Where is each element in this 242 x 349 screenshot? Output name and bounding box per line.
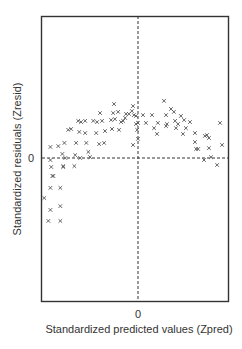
data-point-x-marker (155, 132, 159, 136)
data-point-x-marker (123, 116, 127, 120)
data-point-x-marker (97, 142, 101, 146)
data-point-x-marker (152, 126, 156, 130)
data-point-x-marker (74, 141, 78, 145)
data-point-x-marker (176, 122, 180, 126)
data-point-x-marker (100, 119, 104, 123)
data-point-x-marker (95, 120, 99, 124)
data-point-x-marker (188, 120, 192, 124)
data-point-x-marker (202, 158, 206, 162)
data-point-x-marker (59, 204, 63, 208)
data-point-x-marker (69, 127, 73, 131)
data-point-x-marker (144, 121, 148, 125)
data-point-x-marker (193, 131, 197, 135)
data-point-x-marker (92, 119, 96, 123)
data-point-x-marker (172, 110, 176, 114)
plot-frame (42, 17, 229, 302)
data-point-x-marker (73, 164, 77, 168)
data-point-x-marker (220, 143, 224, 147)
data-point-x-marker (110, 127, 114, 131)
data-point-x-marker (94, 131, 98, 135)
data-point-x-marker (193, 140, 197, 144)
data-point-x-marker (174, 126, 178, 130)
data-point-x-marker (47, 219, 51, 223)
data-point-x-marker (61, 152, 65, 156)
data-point-x-marker (83, 119, 87, 123)
y-tick-label-zero: 0 (28, 152, 34, 164)
data-point-x-marker (85, 141, 89, 145)
data-point-x-marker (112, 102, 116, 106)
data-point-x-marker (131, 143, 135, 147)
data-point-x-marker (49, 165, 53, 169)
data-point-x-marker (49, 186, 53, 190)
x-axis-label: Standardized predicted values (Zpred) (45, 323, 232, 335)
data-point-x-marker (49, 208, 53, 212)
data-point-x-marker (103, 129, 107, 133)
data-point-x-marker (66, 128, 70, 132)
data-point-x-marker (78, 130, 82, 134)
data-point-x-marker (182, 118, 186, 122)
data-point-x-marker (117, 128, 121, 132)
data-point-x-marker (109, 118, 113, 122)
data-point-x-marker (209, 155, 213, 159)
data-point-x-marker (179, 114, 183, 118)
data-point-x-marker (150, 113, 154, 117)
data-point-x-marker (130, 109, 134, 113)
data-point-x-marker (207, 136, 211, 140)
data-point-x-marker (113, 117, 117, 121)
data-point-x-marker (49, 158, 53, 162)
data-point-x-marker (184, 126, 188, 130)
data-point-x-marker (207, 146, 211, 150)
data-point-x-marker (162, 99, 166, 103)
data-point-x-marker (116, 110, 120, 114)
data-point-x-marker (56, 144, 60, 148)
data-point-x-marker (218, 121, 222, 125)
data-point-x-marker (156, 121, 160, 125)
data-point-x-marker (49, 145, 53, 149)
data-point-x-marker (63, 141, 67, 145)
data-point-x-marker (42, 196, 46, 200)
data-point-x-marker (111, 111, 115, 115)
data-point-x-marker (98, 111, 102, 115)
data-point-x-marker (59, 219, 63, 223)
residual-scatter-chart: 0 0 Standardized predicted values (Zpred… (0, 0, 242, 349)
data-point-x-marker (88, 155, 92, 159)
data-point-x-marker (196, 147, 200, 151)
data-point-x-marker (73, 153, 77, 157)
y-axis-label: Standardized residuals (Zresid) (11, 83, 23, 236)
data-point-x-marker (181, 132, 185, 136)
data-point-x-marker (141, 113, 145, 117)
data-point-x-marker (164, 113, 168, 117)
x-tick-label-zero: 0 (135, 308, 141, 320)
data-point-x-marker (102, 141, 106, 145)
data-point-x-marker (87, 150, 91, 154)
data-point-x-marker (135, 128, 139, 132)
data-markers (42, 99, 223, 223)
data-point-x-marker (215, 163, 219, 167)
data-point-x-marker (131, 104, 135, 108)
data-point-x-marker (83, 131, 87, 135)
data-point-x-marker (59, 186, 63, 190)
